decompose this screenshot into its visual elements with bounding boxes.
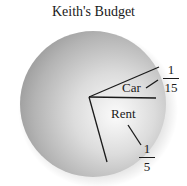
pie-chart — [0, 0, 187, 186]
fraction-bar — [163, 78, 179, 79]
rent-fraction-denominator: 5 — [144, 159, 151, 174]
rent-fraction-numerator: 1 — [144, 141, 151, 156]
rent-fraction: 1 5 — [138, 142, 156, 173]
fraction-bar — [139, 157, 155, 158]
slice-label-rent: Rent — [111, 107, 136, 120]
car-fraction: 1 15 — [162, 63, 180, 94]
car-fraction-denominator: 15 — [165, 80, 178, 95]
slice-label-car: Car — [122, 81, 141, 94]
car-fraction-numerator: 1 — [168, 62, 175, 77]
